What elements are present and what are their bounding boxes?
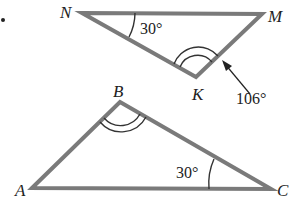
- vertex-label-k: K: [191, 85, 205, 104]
- vertex-label-n: N: [59, 3, 73, 22]
- angle-n-arc: [129, 13, 135, 37]
- vertex-label-a: A: [14, 181, 26, 200]
- angle-c-value: 30°: [176, 164, 198, 181]
- angle-n-value: 30°: [140, 20, 162, 37]
- vertex-label-m: M: [267, 7, 283, 26]
- triangle-nmk-edges: [82, 13, 262, 77]
- geometry-diagram: N M K 30° 106° B A C 30°: [0, 0, 303, 224]
- angle-c-arc: [209, 159, 214, 189]
- triangle-abc-edges: [32, 102, 271, 189]
- problem-bullet: [1, 18, 5, 22]
- triangle-nmk: N M K 30° 106°: [59, 3, 283, 107]
- angle-b-arc-outer: [100, 117, 146, 132]
- angle-b-arc-inner: [104, 114, 140, 126]
- callout-arrowhead-icon: [222, 60, 232, 71]
- vertex-label-b: B: [113, 82, 124, 101]
- vertex-label-c: C: [277, 181, 289, 200]
- angle-k-value: 106°: [236, 90, 266, 107]
